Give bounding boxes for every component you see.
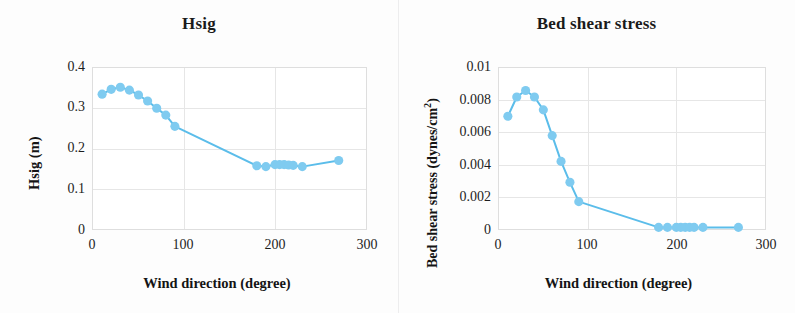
data-point-marker xyxy=(298,162,307,171)
xtick-hsig-0: 0 xyxy=(67,237,117,253)
ytick-hsig-1: 0.3 xyxy=(25,99,85,115)
data-point-marker xyxy=(98,90,107,99)
yaxis-label-bss-main: Bed shear stress (dynes/cm xyxy=(425,108,440,268)
data-point-marker xyxy=(116,83,125,92)
yaxis-label-bss-superscript: 2 xyxy=(422,103,433,108)
data-point-marker xyxy=(512,92,521,101)
data-point-marker xyxy=(574,197,583,206)
chart-panel-hsig: Hsig 0.4 0.3 0.2 0.1 0 0 100 200 300 Win… xyxy=(0,0,398,313)
data-point-marker xyxy=(334,156,343,165)
data-point-marker xyxy=(663,223,672,232)
data-point-marker xyxy=(134,90,143,99)
data-layer-bed-shear-stress xyxy=(499,68,765,229)
chart-title-bed-shear-stress: Bed shear stress xyxy=(398,14,795,34)
data-point-marker xyxy=(289,161,298,170)
data-point-marker xyxy=(734,223,743,232)
data-point-marker xyxy=(521,86,530,95)
xtick-bss-3: 300 xyxy=(741,237,791,253)
data-point-marker xyxy=(152,104,161,113)
ytick-hsig-0: 0.4 xyxy=(25,59,85,75)
xtick-bss-1: 100 xyxy=(562,237,612,253)
xtick-bss-2: 200 xyxy=(652,237,702,253)
data-point-marker xyxy=(548,131,557,140)
data-point-marker xyxy=(654,223,663,232)
data-point-marker xyxy=(689,223,698,232)
data-point-marker xyxy=(261,162,270,171)
data-point-marker xyxy=(143,96,152,105)
ytick-hsig-4: 0 xyxy=(25,222,85,238)
xtick-hsig-3: 300 xyxy=(342,237,392,253)
plot-area-hsig xyxy=(92,67,367,230)
data-point-marker xyxy=(170,122,179,131)
data-point-marker xyxy=(565,178,574,187)
figure-container: Hsig 0.4 0.3 0.2 0.1 0 0 100 200 300 Win… xyxy=(0,0,795,313)
data-point-marker xyxy=(252,161,261,170)
xaxis-label-bed-shear-stress: Wind direction (degree) xyxy=(420,275,795,292)
xaxis-label-hsig: Wind direction (degree) xyxy=(18,275,416,292)
data-point-marker xyxy=(161,111,170,120)
chart-title-hsig: Hsig xyxy=(0,14,398,34)
data-layer-hsig xyxy=(93,68,366,229)
data-point-marker xyxy=(125,86,134,95)
data-point-marker xyxy=(556,157,565,166)
data-point-marker xyxy=(107,85,116,94)
plot-area-bed-shear-stress xyxy=(498,67,766,230)
data-point-marker xyxy=(539,105,548,114)
xtick-bss-0: 0 xyxy=(473,237,523,253)
yaxis-label-bed-shear-stress: Bed shear stress (dynes/cm2) xyxy=(422,98,441,268)
chart-panel-bed-shear-stress: Bed shear stress 0.01 0.008 0.006 0.004 … xyxy=(398,0,795,313)
ytick-bss-0: 0.01 xyxy=(419,59,491,75)
data-point-marker xyxy=(698,223,707,232)
xtick-hsig-1: 100 xyxy=(158,237,208,253)
data-point-marker xyxy=(530,92,539,101)
xtick-hsig-2: 200 xyxy=(250,237,300,253)
data-point-marker xyxy=(503,112,512,121)
yaxis-label-hsig: Hsig (m) xyxy=(26,136,43,190)
yaxis-label-bss-tail: ) xyxy=(425,98,440,103)
